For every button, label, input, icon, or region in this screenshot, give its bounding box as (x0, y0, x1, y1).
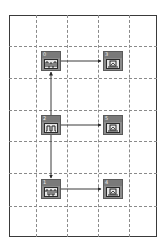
block-panel (44, 59, 58, 69)
block-panel (106, 59, 120, 69)
block-panel (44, 123, 58, 133)
block-number: 5 (105, 115, 108, 121)
block-panel (106, 187, 120, 197)
block-4[interactable]: 4 (103, 179, 123, 199)
block-number: 1 (43, 179, 46, 185)
block-1[interactable]: 1 (41, 179, 61, 199)
block-5[interactable]: 5 (103, 115, 123, 135)
waveform-icon (45, 60, 57, 68)
block-0[interactable]: 0 (41, 51, 61, 71)
block-panel (106, 123, 120, 133)
block-number: 2 (43, 115, 46, 121)
pulse-icon (45, 124, 57, 132)
scope-icon (107, 188, 119, 196)
waveform-icon (45, 188, 57, 196)
block-number: 3 (105, 51, 108, 57)
block-panel (44, 187, 58, 197)
scope-icon (107, 60, 119, 68)
connection-layer (0, 0, 167, 249)
block-2[interactable]: 2 (41, 115, 61, 135)
scope-icon (107, 124, 119, 132)
block-3[interactable]: 3 (103, 51, 123, 71)
block-number: 0 (43, 51, 46, 57)
block-number: 4 (105, 179, 108, 185)
